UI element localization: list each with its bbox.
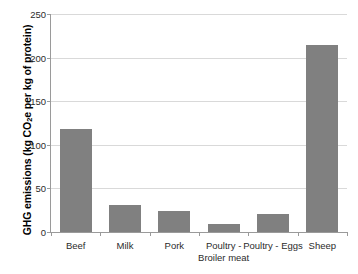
x-tick-mark — [248, 232, 249, 236]
bar-slot — [51, 14, 100, 232]
y-tick-label: 200 — [30, 52, 46, 63]
y-tick-label: 150 — [30, 96, 46, 107]
y-tick-label: 250 — [30, 9, 46, 20]
bar-slot — [100, 14, 149, 232]
bar — [158, 211, 190, 232]
y-tick-label: 50 — [35, 183, 46, 194]
x-tick-mark — [51, 232, 52, 236]
bar — [257, 214, 289, 232]
bar-slot — [199, 14, 248, 232]
x-tick-label: Pork — [165, 240, 185, 252]
x-tick-mark — [100, 232, 101, 236]
x-tick-label: Sheep — [309, 240, 336, 252]
y-tick-label: 100 — [30, 139, 46, 150]
x-tick-mark — [347, 232, 348, 236]
x-tick-mark — [199, 232, 200, 236]
bar — [60, 129, 92, 232]
x-tick-label: Poultry - Eggs — [243, 240, 303, 252]
bars — [51, 14, 347, 232]
bar — [306, 45, 338, 232]
bar-slot — [298, 14, 347, 232]
x-tick-mark — [150, 232, 151, 236]
bar-slot — [150, 14, 199, 232]
y-tick-label: 0 — [41, 227, 46, 238]
y-axis-title: GHG emissions (kg CO2e per kg of protein… — [16, 12, 38, 248]
x-tick-label: Beef — [66, 240, 86, 252]
bar — [208, 224, 240, 232]
plot-area: 050100150200250 BeefMilkPorkPoultry - Br… — [50, 14, 347, 233]
x-tick-label: Milk — [117, 240, 134, 252]
bar — [109, 205, 141, 232]
y-axis-title-subscript: 2 — [25, 118, 34, 122]
bar-slot — [248, 14, 297, 232]
x-tick-label: Poultry - Broiler meat — [198, 240, 249, 263]
x-tick-mark — [298, 232, 299, 236]
bar-chart: GHG emissions (kg CO2e per kg of protein… — [0, 0, 358, 274]
